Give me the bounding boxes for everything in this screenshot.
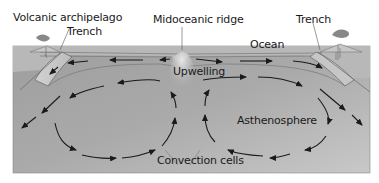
label-convection-cells: Convection cells (157, 155, 244, 167)
label-asthenosphere: Asthenosphere (237, 115, 317, 127)
smoke-left (36, 35, 50, 42)
smoke-right (332, 29, 349, 37)
label-trench-right: Trench (296, 14, 331, 26)
label-trench-left: Trench (67, 26, 102, 38)
label-volcanic-archipelago: Volcanic archipelago (13, 12, 122, 24)
label-midoceanic-ridge: Midoceanic ridge (153, 14, 244, 26)
label-upwelling: Upwelling (173, 66, 225, 78)
label-ocean: Ocean (250, 39, 284, 51)
